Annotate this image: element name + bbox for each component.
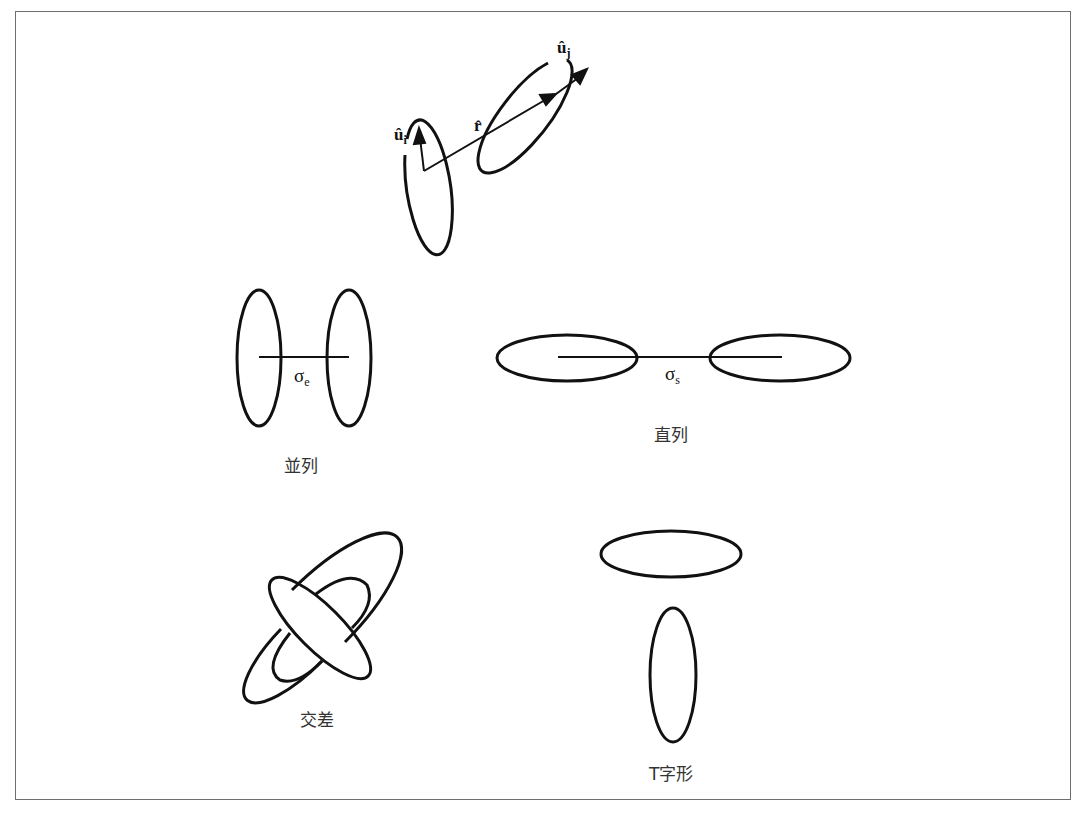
sigma-s-label: σs (665, 363, 680, 387)
ellipse-i (405, 120, 453, 255)
label-uj: ûj (557, 38, 570, 60)
pair-orientation-diagram (405, 60, 572, 255)
ellipse-j (478, 60, 572, 173)
vectors (414, 69, 587, 171)
caption-series: 直列 (654, 421, 688, 446)
parallel-configuration (237, 290, 371, 426)
label-r: r̂ (474, 116, 482, 135)
vector-ui-arrowhead-icon (414, 128, 425, 144)
sigma-e-label: σe (294, 365, 310, 389)
crossed-configuration (244, 533, 402, 703)
caption-crossed: 交差 (300, 706, 334, 731)
caption-t-shape: T字形 (649, 760, 693, 785)
ellipsoid-configurations-diagram: ûi ûj r̂ σe σs (0, 0, 1086, 813)
label-ui: ûi (394, 125, 407, 147)
caption-parallel: 並列 (284, 452, 318, 477)
t-shape-configuration (601, 531, 741, 742)
vector-r-arrowhead-icon (540, 94, 556, 105)
vector-r-line (424, 100, 545, 171)
